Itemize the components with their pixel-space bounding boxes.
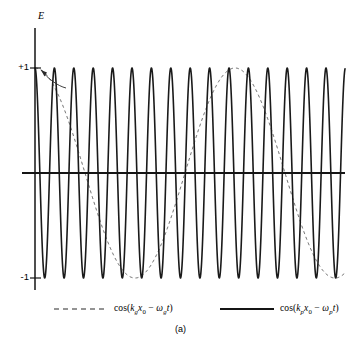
legend-group-prefix: cos( xyxy=(114,303,130,313)
legend-item-group-wave: cos(kgx0 − ωgt) xyxy=(54,300,173,318)
wave-figure: E +1 -1 cos(kgx0 − ωgt) cos(kpx0 − ωpt) … xyxy=(0,0,361,340)
legend-swatch-solid-line xyxy=(220,303,274,315)
tick-label-minus-one: -1 xyxy=(9,271,29,282)
legend-phase-suffix: ) xyxy=(335,303,338,313)
legend-group-minus: − xyxy=(146,303,156,313)
legend-swatch-dashed-line xyxy=(54,303,108,315)
wave-plot-canvas xyxy=(0,0,361,340)
legend-phase-prefix: cos( xyxy=(280,303,296,313)
tick-label-plus-one: +1 xyxy=(9,61,29,72)
legend-label-phase-wave: cos(kpx0 − ωpt) xyxy=(280,303,339,315)
legend-group-suffix: ) xyxy=(169,303,172,313)
legend-item-phase-wave: cos(kpx0 − ωpt) xyxy=(220,300,339,318)
y-axis-label: E xyxy=(38,10,44,21)
legend-label-group-wave: cos(kgx0 − ωgt) xyxy=(114,303,173,315)
legend-phase-minus: − xyxy=(312,303,322,313)
figure-caption: (a) xyxy=(0,324,361,334)
legend: cos(kgx0 − ωgt) cos(kpx0 − ωpt) xyxy=(32,300,352,318)
